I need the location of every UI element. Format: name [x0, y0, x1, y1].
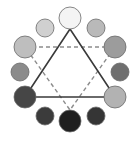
color-circles	[11, 7, 129, 132]
dashed-triangle	[25, 47, 115, 110]
color-circle-bottom	[59, 110, 81, 132]
color-circle-top-right	[87, 19, 105, 37]
color-circle-top-left	[36, 19, 54, 37]
color-circle-right-upper	[104, 36, 126, 58]
color-wheel-diagram	[0, 0, 135, 142]
color-circle-bottom-left	[36, 107, 54, 125]
solid-triangle	[25, 29, 115, 97]
color-circle-bottom-right	[87, 107, 105, 125]
color-circle-right-mid	[111, 63, 129, 81]
color-circle-top	[59, 7, 81, 29]
color-circle-left-mid	[11, 63, 29, 81]
color-circle-right-lower	[104, 86, 126, 108]
color-circle-left-lower	[14, 86, 36, 108]
color-circle-left-upper	[14, 36, 36, 58]
